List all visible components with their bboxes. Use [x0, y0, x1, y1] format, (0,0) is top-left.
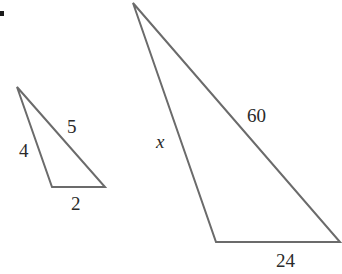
large-hypotenuse-label: 60 — [247, 105, 266, 126]
small-triangle: 4 5 2 — [17, 87, 105, 214]
small-hypotenuse-label: 5 — [67, 116, 77, 137]
small-triangle-outline — [17, 87, 105, 187]
small-base-label: 2 — [71, 193, 81, 214]
large-triangle-outline — [133, 3, 340, 242]
similar-triangles-figure: 4 5 2 x 60 24 — [0, 0, 342, 274]
large-base-label: 24 — [276, 250, 296, 271]
large-triangle: x 60 24 — [133, 3, 340, 271]
small-left-side-label: 4 — [19, 140, 29, 161]
bullet-marker — [0, 11, 4, 16]
large-left-side-label: x — [155, 131, 165, 152]
